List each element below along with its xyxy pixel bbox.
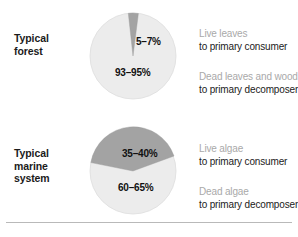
pct-label-marine-live: 35–40%	[122, 148, 158, 159]
callout-forest-live-tail: to primary consumer	[199, 41, 298, 54]
row-title-forest: Typical forest	[14, 32, 92, 57]
callout-marine-dead: Dead algae to primary decomposer	[199, 186, 298, 211]
callout-forest-dead: Dead leaves and wood to primary decompos…	[199, 71, 298, 96]
pct-label-forest-live: 5–7%	[136, 36, 161, 47]
pie-marine-svg	[88, 126, 178, 216]
callout-forest-dead-lead: Dead leaves and wood	[199, 71, 298, 84]
callout-marine-live-lead: Live algae	[199, 143, 298, 156]
figure-root: Typical forest 5–7% 93–95% Live leaves t…	[0, 0, 298, 237]
callout-forest-live: Live leaves to primary consumer	[199, 28, 298, 53]
pie-chart-marine	[88, 126, 178, 216]
pie-chart-forest	[88, 11, 178, 101]
callout-marine-live-tail: to primary consumer	[199, 156, 298, 169]
callout-marine-live: Live algae to primary consumer	[199, 143, 298, 168]
callout-forest-dead-tail: to primary decomposer	[199, 84, 298, 97]
callout-marine-dead-lead: Dead algae	[199, 186, 298, 199]
callout-forest-live-lead: Live leaves	[199, 28, 298, 41]
pct-label-forest-dead: 93–95%	[115, 67, 151, 78]
callout-marine-dead-tail: to primary decomposer	[199, 199, 298, 212]
row-title-marine: Typical marine system	[14, 147, 92, 185]
bottom-divider	[6, 222, 292, 223]
pct-label-marine-dead: 60–65%	[118, 182, 154, 193]
pie-forest-svg	[88, 11, 178, 101]
